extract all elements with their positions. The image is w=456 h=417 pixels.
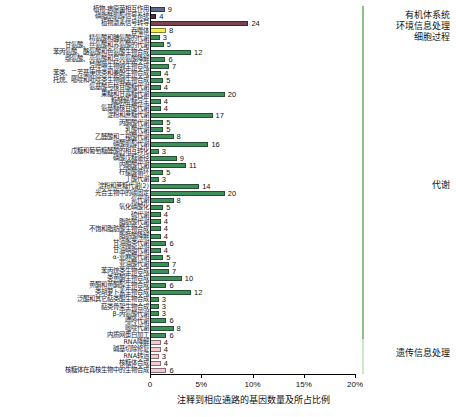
bar-row: 24 <box>150 21 355 26</box>
bar-value-label: 5 <box>167 40 171 49</box>
bar-row: 14 <box>150 184 355 189</box>
y-axis-category-label: 植物激素信号转导 <box>101 20 149 26</box>
x-axis-tick <box>304 374 305 378</box>
bar-value-label: 3 <box>162 147 166 156</box>
bar-value-label: 4 <box>164 359 168 368</box>
y-axis-category-label: 丙酮酸代谢 <box>119 120 149 126</box>
bar <box>150 85 161 90</box>
bar <box>150 269 169 274</box>
bar-value-label: 4 <box>164 104 168 113</box>
bar-value-label: 4 <box>164 83 168 92</box>
bar-value-label: 5 <box>166 168 170 177</box>
bar-row: 4 <box>150 361 355 366</box>
group-bracket-metabolism <box>362 34 364 338</box>
y-axis-category-label: 硫代谢 <box>131 212 149 218</box>
bar-row: 5 <box>150 78 355 83</box>
bar-row: 4 <box>150 106 355 111</box>
bar-row: 5 <box>150 120 355 125</box>
bar <box>150 184 199 189</box>
bar-row: 4 <box>150 347 355 352</box>
bar-row: 20 <box>150 92 355 97</box>
bar-value-label: 14 <box>202 182 210 191</box>
bar <box>150 99 161 104</box>
bar <box>150 35 160 40</box>
bar-row: 12 <box>150 290 355 295</box>
bar-row: 4 <box>150 99 355 104</box>
bar-row: 4 <box>150 85 355 90</box>
bar-row: 8 <box>150 326 355 331</box>
y-axis-category-label: 核糖体在真核生物中的生物合成 <box>65 367 149 373</box>
bar-row: 9 <box>150 156 355 161</box>
bar-value-label: 6 <box>169 239 173 248</box>
bar-value-label: 5 <box>166 125 170 134</box>
bar-value-label: 12 <box>194 48 202 57</box>
bar-row: 8 <box>150 198 355 203</box>
bar-value-label: 5 <box>166 253 170 262</box>
bar <box>150 304 159 309</box>
bar <box>150 120 163 125</box>
y-axis-category-label: 泛醌和其它萜类醌生物合成 <box>77 296 149 302</box>
bar-value-label: 3 <box>162 175 166 184</box>
bar <box>150 42 164 47</box>
bar-row: 5 <box>150 170 355 175</box>
bar <box>150 311 159 316</box>
bar-value-label: 8 <box>169 26 173 35</box>
bar <box>150 177 159 182</box>
bar-row: 3 <box>150 304 355 309</box>
bar-row: 7 <box>150 269 355 274</box>
y-axis-line <box>150 6 151 374</box>
bar-value-label: 8 <box>177 132 181 141</box>
bar-row: 8 <box>150 134 355 139</box>
bar <box>150 340 161 345</box>
bar-row: 7 <box>150 64 355 69</box>
y-axis-category-label: 淀粉和蔗糖代谢 <box>107 112 149 118</box>
x-axis-tick <box>253 374 254 378</box>
bar-row: 4 <box>150 340 355 345</box>
bar <box>150 78 163 83</box>
bar <box>150 290 191 295</box>
bar-row: 7 <box>150 262 355 267</box>
bar-row: 4 <box>150 212 355 217</box>
bar-row: 3 <box>150 297 355 302</box>
bar-value-label: 20 <box>228 189 236 198</box>
bar <box>150 21 248 26</box>
y-axis-category-label: 吞噬体 <box>131 28 149 34</box>
bar <box>150 226 161 231</box>
bar-row: 20 <box>150 191 355 196</box>
plot-area: 9424835126745420441755816391153142085444… <box>150 6 355 374</box>
bar-row: 4 <box>150 226 355 231</box>
x-axis-tick <box>201 374 202 378</box>
bar-row: 4 <box>150 234 355 239</box>
bar <box>150 283 166 288</box>
bar-value-label: 6 <box>169 281 173 290</box>
bar-row: 6 <box>150 283 355 288</box>
bar-value-label: 10 <box>185 274 193 283</box>
bar-row: 4 <box>150 219 355 224</box>
bar-row: 12 <box>150 50 355 55</box>
group-bracket-environmental <box>362 13 364 27</box>
bar-value-label: 7 <box>172 267 176 276</box>
bar-row: 5 <box>150 42 355 47</box>
bar <box>150 276 182 281</box>
y-axis-category-label: 萜类骨架生物合成 <box>101 304 149 310</box>
bar-value-label: 11 <box>189 161 197 170</box>
bar <box>150 234 161 239</box>
bar-row: 6 <box>150 318 355 323</box>
bar <box>150 92 225 97</box>
bar-value-label: 17 <box>216 111 224 120</box>
y-axis-labels: 植物-病原菌相互作用磷脂酰肌醇信号系统植物激素信号转导吞噬体精氨酸和脯氨酸的代谢… <box>0 0 150 380</box>
bar-row: 3 <box>150 311 355 316</box>
bar-value-label: 12 <box>194 288 202 297</box>
bar-row: 3 <box>150 177 355 182</box>
bar <box>150 318 166 323</box>
bar-row: 4 <box>150 71 355 76</box>
bar <box>150 106 161 111</box>
bar-value-label: 6 <box>169 316 173 325</box>
bar-row: 3 <box>150 35 355 40</box>
group-label-cellular: 细胞过程 <box>414 30 450 43</box>
bar <box>150 255 163 260</box>
x-axis-tick-label: 0 <box>148 380 152 389</box>
bar-row: 6 <box>150 333 355 338</box>
bar-value-label: 9 <box>180 154 184 163</box>
bar <box>150 354 159 359</box>
